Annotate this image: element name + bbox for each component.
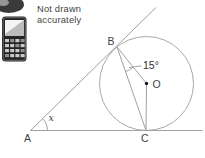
angle-x-label: x bbox=[49, 112, 55, 123]
point-label-c: C bbox=[141, 132, 149, 144]
chord-bc bbox=[117, 47, 146, 131]
angle-leader-line bbox=[129, 66, 142, 68]
point-label-a: A bbox=[24, 132, 31, 144]
question-diagram-panel: Not drawn accurately A B C O x 15° bbox=[0, 0, 205, 158]
angle-15-label: 15° bbox=[143, 59, 159, 71]
point-label-b: B bbox=[108, 35, 115, 47]
segment-oc bbox=[146, 84, 147, 131]
angle-arc-a bbox=[43, 119, 48, 131]
geometry-figure: A B C O x 15° bbox=[0, 0, 205, 158]
center-label-o: O bbox=[153, 78, 161, 90]
center-dot bbox=[145, 82, 148, 85]
